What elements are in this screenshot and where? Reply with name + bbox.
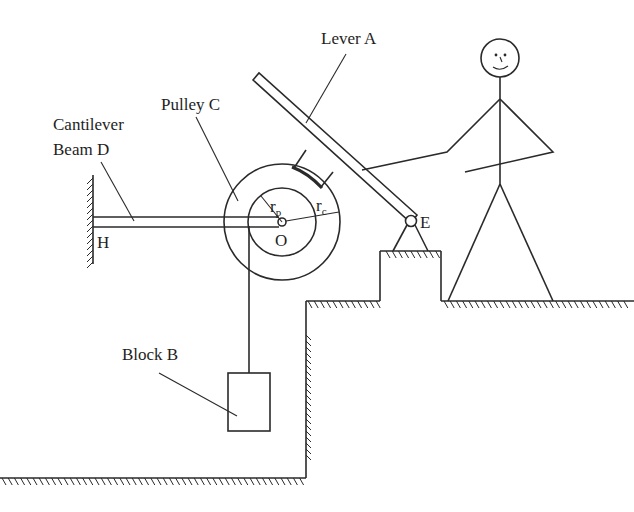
leader-beam-d [101, 162, 134, 221]
label-h: H [97, 233, 109, 252]
cantilever-beam-d [93, 217, 279, 227]
label-rc: rc [316, 196, 327, 217]
label-o: O [275, 231, 287, 250]
ground-profile [0, 251, 634, 485]
label-e: E [420, 213, 430, 232]
right-arm [465, 99, 553, 172]
label-lever-a: Lever A [321, 29, 377, 48]
label-block-b: Block B [122, 345, 178, 364]
left-leg [448, 184, 500, 301]
radius-rc-line [286, 212, 339, 221]
label-rp: rp [270, 197, 282, 218]
lever-a [253, 73, 417, 223]
brake-shoe [292, 150, 333, 188]
right-eye [504, 54, 507, 57]
person-stick-figure [362, 39, 553, 301]
mechanism-diagram: Lever A Pulley C Cantilever Beam D Block… [0, 0, 634, 512]
nose [500, 57, 502, 62]
smile [493, 66, 508, 69]
fixed-wall-support [87, 175, 93, 268]
block-b [228, 373, 270, 431]
leader-block-b [159, 373, 237, 416]
right-leg [500, 184, 553, 301]
label-pulley-c: Pulley C [161, 95, 220, 114]
label-cantilever: Cantilever [53, 115, 124, 134]
leader-lever-a [306, 54, 346, 123]
diagram-canvas: Lever A Pulley C Cantilever Beam D Block… [0, 0, 634, 512]
leader-pulley-c [196, 117, 238, 201]
left-eye [495, 54, 498, 57]
left-arm [362, 99, 500, 170]
label-beam-d: Beam D [53, 140, 109, 159]
pulley-c [224, 164, 340, 280]
